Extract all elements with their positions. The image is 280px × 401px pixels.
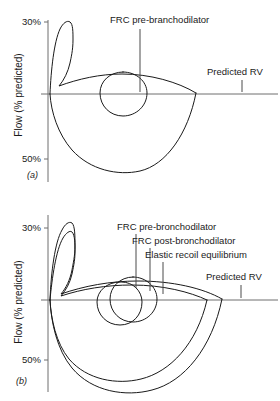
panel-a-label-frc-pre: FRC pre-branchodilator <box>110 14 209 25</box>
panel-a-expiratory-limb <box>50 21 196 94</box>
panel-b-tick-label-30: 30% <box>22 222 42 233</box>
panel-b-inspiratory-limb-post <box>50 299 222 393</box>
flow-volume-loop-figure: 30% 50% Flow (% predicted) (a) FRC pre-b… <box>0 0 280 401</box>
panel-b-label-frc-pre: FRC pre-bronchodilator <box>117 221 216 232</box>
panel-a-tick-label-30: 30% <box>22 16 42 27</box>
panel-b-label-elastic-recoil: Elastic recoil equilibrium <box>145 249 247 260</box>
panel-b-tick-label-50: 50% <box>22 354 42 365</box>
panel-b-label-predicted-rv: Predicted RV <box>206 271 262 282</box>
panel-a-tick-label-50: 50% <box>22 153 42 164</box>
panel-a-label-predicted-rv: Predicted RV <box>207 66 263 77</box>
figure-container: 30% 50% Flow (% predicted) (a) FRC pre-b… <box>0 0 280 401</box>
panel-b: 30% 50% Flow (% predicted) (b) FRC pre-b… <box>13 215 278 393</box>
panel-a-inspiratory-limb <box>50 93 196 173</box>
panel-b-label-frc-post: FRC post-bronchodilator <box>132 235 236 246</box>
panel-b-letter: (b) <box>16 376 27 386</box>
panel-a: 30% 50% Flow (% predicted) (a) FRC pre-b… <box>13 14 278 182</box>
panel-b-tidal-loop-pre <box>97 282 142 325</box>
panel-a-y-axis-title: Flow (% predicted) <box>13 53 24 136</box>
panel-a-letter: (a) <box>27 170 38 180</box>
panel-b-y-axis-title: Flow (% predicted) <box>13 260 24 343</box>
